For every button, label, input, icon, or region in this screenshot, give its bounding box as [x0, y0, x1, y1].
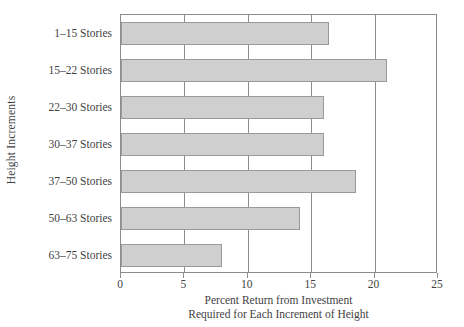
x-axis-tick-label: 10 [241, 278, 253, 290]
y-axis-tick-label: 1–15 Stories [20, 27, 112, 39]
bar [121, 170, 356, 193]
bar [121, 207, 300, 230]
x-axis-tick-label: 15 [304, 278, 316, 290]
gridline [375, 15, 376, 272]
x-axis-tick-label: 5 [181, 278, 187, 290]
x-axis-title-line1: Percent Return from Investment [120, 293, 437, 307]
bar [121, 59, 387, 82]
bar [121, 133, 324, 156]
plot-area [120, 14, 437, 273]
x-axis-ticks: 0510152025 [120, 273, 437, 295]
y-axis-tick-label: 50–63 Stories [20, 212, 112, 224]
x-axis-tick-label: 25 [431, 278, 443, 290]
x-axis-tick-label: 0 [117, 278, 123, 290]
y-axis-tick-label: 63–75 Stories [20, 249, 112, 261]
bar [121, 96, 324, 119]
bar [121, 244, 222, 267]
y-axis-tick-label: 30–37 Stories [20, 138, 112, 150]
y-axis-title: Height Increments [0, 0, 22, 280]
y-axis-tick-label: 15–22 Stories [20, 64, 112, 76]
bar-chart-figure: Height Increments 1–15 Stories15–22 Stor… [0, 0, 464, 327]
x-axis-title: Percent Return from Investment Required … [120, 293, 437, 321]
y-axis-title-text: Height Increments [5, 96, 17, 185]
x-axis-title-line2: Required for Each Increment of Height [120, 307, 437, 321]
bar [121, 22, 329, 45]
x-axis-tick-label: 20 [368, 278, 380, 290]
y-axis-tick-label: 37–50 Stories [20, 175, 112, 187]
y-axis-tick-labels: 1–15 Stories15–22 Stories22–30 Stories30… [24, 14, 116, 273]
y-axis-tick-label: 22–30 Stories [20, 101, 112, 113]
